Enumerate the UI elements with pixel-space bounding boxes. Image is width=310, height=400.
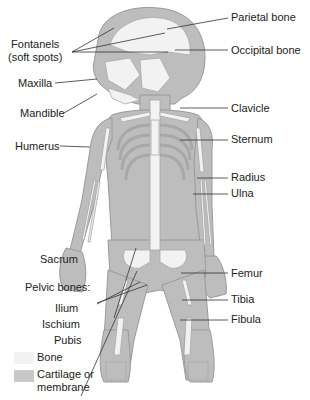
fontanels-subtext: (soft spots) [8,51,62,64]
cartilage-subtext: membrane [37,381,94,394]
label-ischium: Ischium [42,318,80,331]
label-sacrum: Sacrum [40,253,78,266]
label-occipital-bone: Occipital bone [231,44,301,57]
label-sternum: Sternum [231,133,273,146]
fontanels-text: Fontanels [8,38,62,51]
label-clavicle: Clavicle [231,102,270,115]
label-humerus: Humerus [15,140,60,153]
label-tibia: Tibia [231,293,254,306]
label-pelvic-bones: Pelvic bones: [25,281,90,294]
label-fontanels: Fontanels (soft spots) [8,38,62,64]
legend-label-bone: Bone [37,351,63,364]
legend-swatch-bone [14,352,34,364]
label-mandible: Mandible [20,107,65,120]
label-fibula: Fibula [231,313,261,326]
label-radius: Radius [231,171,265,184]
label-pubis: Pubis [54,334,82,347]
label-ilium: Ilium [55,302,78,315]
label-parietal-bone: Parietal bone [231,11,296,24]
cartilage-text: Cartilage or [37,368,94,381]
label-maxilla: Maxilla [18,77,52,90]
label-femur: Femur [231,267,263,280]
legend-swatch-cartilage [14,370,34,382]
infant-skeleton-diagram: Fontanels (soft spots) Maxilla Mandible … [0,0,310,400]
label-ulna: Ulna [231,187,254,200]
legend-label-cartilage: Cartilage or membrane [37,368,94,394]
